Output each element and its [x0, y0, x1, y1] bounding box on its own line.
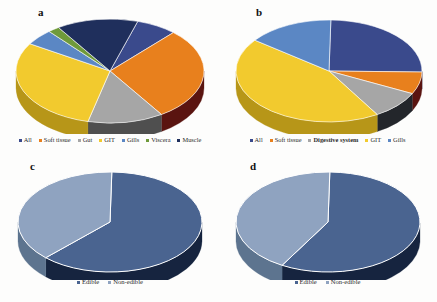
legend-item: Soft tissue	[39, 137, 71, 143]
legend-swatch-icon	[388, 139, 391, 142]
panel-b: b AllSoft tissueDigestive systemGITGills	[218, 0, 437, 152]
legend-swatch-icon	[122, 139, 125, 142]
legend-item: Viscera	[146, 137, 170, 143]
legend-item: Gills	[388, 137, 405, 143]
legend-swatch-icon	[78, 139, 81, 142]
legend-item: GIT	[365, 137, 381, 143]
legend-swatch-icon	[146, 139, 149, 142]
pie-chart-b	[232, 16, 426, 134]
panel-a: a AllSoft tissueGutGITGillsVisceraMuscle	[0, 0, 220, 152]
legend-swatch-icon	[308, 139, 311, 142]
legend-label: All	[255, 137, 263, 143]
legend-item: Edible	[77, 279, 99, 286]
legend-item: Non-edible	[108, 279, 143, 286]
legend-c: EdibleNon-edible	[0, 276, 220, 288]
legend-item: GIT	[99, 137, 115, 143]
legend-swatch-icon	[177, 139, 180, 142]
legend-label: GIT	[104, 137, 115, 143]
legend-label: GIT	[370, 137, 381, 143]
legend-item: Edible	[295, 279, 317, 286]
legend-swatch-icon	[270, 139, 273, 142]
legend-label: Soft tissue	[275, 137, 302, 143]
legend-swatch-icon	[108, 281, 111, 284]
legend-d: EdibleNon-edible	[218, 276, 437, 288]
legend-label: Non-edible	[331, 279, 361, 286]
legend-swatch-icon	[250, 139, 253, 142]
legend-label: Viscera	[151, 137, 170, 143]
legend-swatch-icon	[326, 281, 329, 284]
legend-label: Edible	[82, 279, 99, 286]
legend-item: Gut	[78, 137, 93, 143]
figure-canvas: a AllSoft tissueGutGITGillsVisceraMuscle…	[0, 0, 437, 302]
legend-swatch-icon	[39, 139, 42, 142]
legend-item: All	[250, 137, 263, 143]
legend-label: Digestive system	[313, 137, 358, 143]
legend-swatch-icon	[365, 139, 368, 142]
panel-c: c EdibleNon-edible	[0, 152, 220, 302]
legend-item: Muscle	[177, 137, 201, 143]
legend-label: Gut	[83, 137, 93, 143]
legend-item: Non-edible	[326, 279, 361, 286]
legend-label: All	[24, 137, 32, 143]
pie-chart-a	[12, 16, 208, 134]
legend-item: Gills	[122, 137, 139, 143]
legend-label: Non-edible	[113, 279, 143, 286]
legend-swatch-icon	[77, 281, 80, 284]
legend-label: Edible	[300, 279, 317, 286]
legend-label: Gills	[127, 137, 139, 143]
legend-item: All	[19, 137, 32, 143]
legend-b: AllSoft tissueDigestive systemGITGills	[218, 134, 437, 146]
legend-label: Soft tissue	[44, 137, 71, 143]
legend-swatch-icon	[99, 139, 102, 142]
legend-swatch-icon	[295, 281, 298, 284]
legend-item: Digestive system	[308, 137, 358, 143]
legend-a: AllSoft tissueGutGITGillsVisceraMuscle	[0, 134, 220, 146]
pie-chart-c	[14, 170, 206, 280]
panel-d: d EdibleNon-edible	[218, 152, 437, 302]
legend-item: Soft tissue	[270, 137, 302, 143]
pie-chart-d	[232, 170, 424, 280]
legend-swatch-icon	[19, 139, 22, 142]
legend-label: Muscle	[182, 137, 201, 143]
legend-label: Gills	[393, 137, 405, 143]
